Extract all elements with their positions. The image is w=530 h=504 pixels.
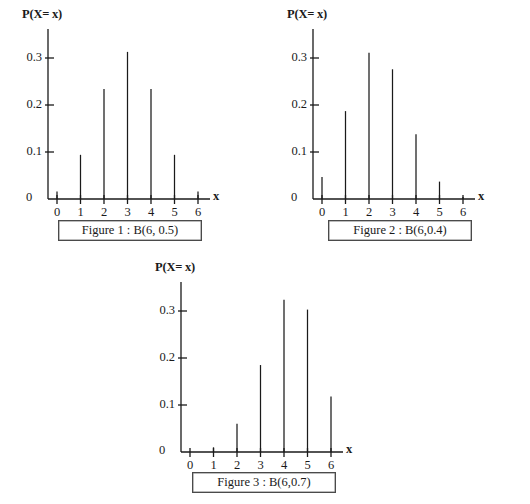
y-tick-label-0_1: 0.1 (141, 397, 175, 412)
y-tick-label-0_3: 0.3 (273, 50, 307, 65)
x-axis-title: x (213, 189, 219, 204)
origin-label: 0 (291, 190, 297, 205)
x-tick-label-3: 3 (251, 458, 271, 473)
x-tick-label-3: 3 (118, 205, 138, 220)
x-tick-label-5: 5 (298, 458, 318, 473)
x-tick-label-0: 0 (180, 458, 200, 473)
plot-1: P(X= x)0.10.20.300123456x (0, 0, 230, 215)
y-tick-label-0_2: 0.2 (141, 350, 175, 365)
x-tick-label-0: 0 (312, 205, 332, 220)
y-tick-label-0_3: 0.3 (141, 303, 175, 318)
x-tick-label-1: 1 (71, 205, 91, 220)
x-tick-label-5: 5 (430, 205, 450, 220)
x-tick-label-4: 4 (141, 205, 161, 220)
x-tick-label-1: 1 (336, 205, 356, 220)
y-axis-title: P(X= x) (155, 260, 195, 275)
x-tick-label-1: 1 (204, 458, 224, 473)
x-tick-label-4: 4 (274, 458, 294, 473)
x-tick-label-6: 6 (188, 205, 208, 220)
y-tick-label-0_2: 0.2 (8, 97, 42, 112)
x-tick-label-2: 2 (359, 205, 379, 220)
origin-label: 0 (159, 443, 165, 458)
x-tick-label-5: 5 (165, 205, 185, 220)
y-tick-label-0_1: 0.1 (273, 144, 307, 159)
figure-block-3: P(X= x)0.10.20.300123456x (133, 253, 363, 468)
y-tick-label-0_1: 0.1 (8, 144, 42, 159)
plot-3: P(X= x)0.10.20.300123456x (133, 253, 363, 468)
figure-block-2: P(X= x)0.10.20.300123456x (265, 0, 495, 215)
x-tick-label-2: 2 (227, 458, 247, 473)
origin-label: 0 (26, 190, 32, 205)
x-tick-label-6: 6 (453, 205, 473, 220)
x-tick-label-0: 0 (47, 205, 67, 220)
x-axis-title: x (478, 189, 484, 204)
y-axis-title: P(X= x) (287, 7, 327, 22)
figure-caption-3: Figure 3 : B(6,0.7) (192, 472, 336, 493)
x-tick-label-3: 3 (383, 205, 403, 220)
x-tick-label-6: 6 (321, 458, 341, 473)
x-tick-label-2: 2 (94, 205, 114, 220)
x-axis-title: x (346, 442, 352, 457)
figure-caption-2: Figure 2 : B(6,0.4) (328, 220, 472, 241)
y-axis-title: P(X= x) (22, 7, 62, 22)
figure-block-1: P(X= x)0.10.20.300123456x (0, 0, 230, 215)
plot-2: P(X= x)0.10.20.300123456x (265, 0, 495, 215)
y-tick-label-0_3: 0.3 (8, 50, 42, 65)
x-tick-label-4: 4 (406, 205, 426, 220)
figure-caption-1: Figure 1 : B(6, 0.5) (58, 220, 202, 241)
y-tick-label-0_2: 0.2 (273, 97, 307, 112)
